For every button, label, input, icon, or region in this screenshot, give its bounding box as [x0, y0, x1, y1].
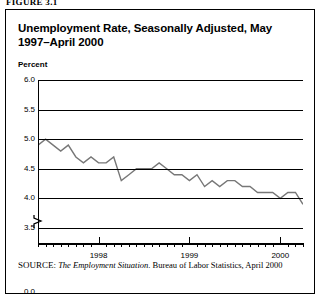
unemployment-line-series	[38, 80, 303, 228]
x-tick-minor	[167, 244, 168, 247]
x-tick-label: 2000	[271, 251, 289, 260]
source-rest: . Bureau of Labor Statistics, April 2000	[148, 260, 282, 270]
x-tick-label: 1999	[181, 251, 199, 260]
source-note: SOURCE: The Employment Situation. Bureau…	[18, 260, 304, 271]
x-tick-minor	[273, 244, 274, 247]
x-tick-minor	[205, 244, 206, 247]
gridline	[38, 198, 303, 199]
x-tick-minor	[288, 244, 289, 247]
x-tick-minor	[53, 244, 54, 247]
x-tick-minor	[46, 244, 47, 247]
gridline	[38, 110, 303, 111]
x-tick-minor	[114, 244, 115, 247]
figure-frame: Unemployment Rate, Seasonally Adjusted, …	[5, 9, 315, 294]
x-tick-minor	[91, 244, 92, 247]
gridline	[38, 169, 303, 170]
y-axis-line	[38, 80, 39, 228]
x-tick-minor	[38, 244, 39, 247]
y-tick-label: 6.0	[24, 76, 35, 84]
x-tick-minor	[235, 244, 236, 247]
x-tick-minor	[76, 244, 77, 247]
y-tick-label: 5.5	[24, 106, 35, 114]
x-tick-minor	[121, 244, 122, 247]
x-tick-minor	[303, 244, 304, 247]
x-tick-minor	[174, 244, 175, 247]
y-axis-label: Percent	[18, 60, 47, 69]
x-tick-minor	[136, 244, 137, 247]
source-title: The Employment Situation	[58, 260, 148, 270]
x-tick-minor	[265, 244, 266, 247]
x-tick-minor	[61, 244, 62, 247]
x-tick-minor	[106, 244, 107, 247]
x-tick-minor	[152, 244, 153, 247]
x-tick-minor	[197, 244, 198, 247]
x-tick-minor	[242, 244, 243, 247]
source-prefix: SOURCE:	[18, 260, 56, 270]
x-tick-minor	[83, 244, 84, 247]
y-tick-label-zero: 0.0	[24, 288, 35, 296]
chart-title: Unemployment Rate, Seasonally Adjusted, …	[18, 22, 288, 49]
x-tick-minor	[129, 244, 130, 247]
plot-area: 6.05.55.04.54.03.50.0	[38, 80, 303, 228]
gridline	[38, 228, 303, 229]
x-tick-minor	[212, 244, 213, 247]
gridline	[38, 80, 303, 81]
axis-break-icon	[33, 215, 45, 229]
x-tick-minor	[258, 244, 259, 247]
figure-label: FIGURE 3.1	[0, 0, 321, 8]
x-tick-minor	[144, 244, 145, 247]
y-tick-label: 5.0	[24, 135, 35, 143]
gridline	[38, 139, 303, 140]
y-tick-label: 4.0	[24, 194, 35, 202]
x-tick-minor	[182, 244, 183, 247]
x-tick-minor	[295, 244, 296, 247]
series-line	[38, 139, 303, 204]
x-tick-minor	[220, 244, 221, 247]
x-tick-label: 1998	[90, 251, 108, 260]
x-tick-minor	[250, 244, 251, 247]
x-tick-major	[99, 237, 100, 244]
x-tick-minor	[159, 244, 160, 247]
x-tick-minor	[68, 244, 69, 247]
x-tick-major	[189, 237, 190, 244]
y-tick-label: 4.5	[24, 165, 35, 173]
x-tick-minor	[227, 244, 228, 247]
y-axis-lower-stub	[38, 228, 39, 244]
x-tick-major	[280, 237, 281, 244]
